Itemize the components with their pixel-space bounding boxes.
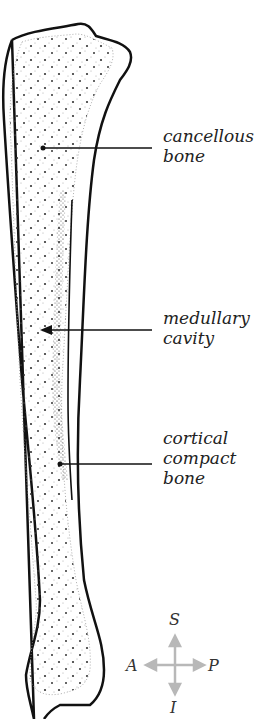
label-medullary-cavity: medullarycavity — [163, 308, 250, 348]
compass-inferior: I — [170, 698, 176, 717]
compass-superior: S — [169, 610, 180, 629]
label-cancellous-bone: cancellousbone — [163, 126, 254, 166]
bone-illustration — [0, 0, 271, 719]
bone-diagram: cancellousbone medullarycavity corticalc… — [0, 0, 271, 719]
compass-posterior: P — [208, 656, 219, 675]
label-cortical-compact-bone: corticalcompactbone — [163, 428, 236, 488]
compass-anterior: A — [126, 656, 138, 675]
compass-arrows-icon — [146, 636, 204, 694]
